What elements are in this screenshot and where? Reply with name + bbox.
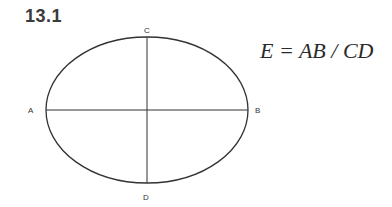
- label-c: C: [144, 26, 150, 35]
- ellipse-diagram: A B C D: [0, 0, 392, 207]
- label-d: D: [143, 193, 149, 202]
- label-b: B: [255, 106, 260, 115]
- label-a: A: [28, 106, 34, 115]
